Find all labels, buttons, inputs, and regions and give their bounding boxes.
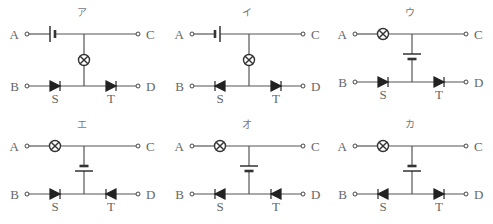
diode-s-icon-triangle bbox=[215, 189, 225, 199]
lamp-icon bbox=[378, 141, 389, 152]
terminal-label-a: A bbox=[10, 139, 20, 154]
lamp-icon bbox=[244, 55, 255, 66]
circuit-a: アABCDST bbox=[10, 7, 156, 106]
diode-label-t: T bbox=[107, 91, 115, 106]
circuit-title: ア bbox=[77, 7, 87, 18]
terminal-label-c: C bbox=[311, 27, 320, 42]
diode-s-icon-triangle bbox=[378, 189, 388, 199]
circuit-u: ウABCDST bbox=[338, 7, 484, 102]
circuit-title: ウ bbox=[405, 7, 415, 18]
diode-label-t: T bbox=[107, 199, 115, 214]
terminal-b bbox=[25, 192, 29, 196]
terminal-a bbox=[353, 32, 357, 36]
terminal-label-a: A bbox=[10, 27, 20, 42]
circuit-i: イABCDST bbox=[175, 7, 321, 106]
terminal-label-c: C bbox=[146, 139, 155, 154]
terminal-label-d: D bbox=[474, 187, 483, 202]
terminal-label-b: B bbox=[338, 187, 347, 202]
circuit-title: エ bbox=[77, 119, 87, 130]
diode-t-icon-triangle bbox=[271, 81, 281, 91]
terminal-a bbox=[190, 32, 194, 36]
diode-label-s: S bbox=[216, 91, 223, 106]
terminal-label-d: D bbox=[474, 75, 483, 90]
terminal-label-b: B bbox=[10, 187, 19, 202]
terminal-a bbox=[190, 144, 194, 148]
terminal-label-b: B bbox=[10, 79, 19, 94]
lamp-icon bbox=[215, 141, 226, 152]
terminal-label-b: B bbox=[338, 75, 347, 90]
terminal-a bbox=[353, 144, 357, 148]
diode-t-icon bbox=[271, 81, 281, 91]
circuit-e: エABCDST bbox=[10, 119, 156, 214]
terminal-label-c: C bbox=[311, 139, 320, 154]
diode-s-icon bbox=[378, 189, 388, 199]
terminal-c bbox=[464, 144, 468, 148]
diode-label-s: S bbox=[379, 199, 386, 214]
terminal-d bbox=[301, 192, 305, 196]
terminal-a bbox=[25, 32, 29, 36]
diode-t-icon bbox=[106, 189, 116, 199]
diode-s-icon-triangle bbox=[378, 77, 388, 87]
battery-icon bbox=[403, 54, 421, 59]
lamp-icon bbox=[79, 55, 90, 66]
diode-s-icon-triangle bbox=[215, 81, 225, 91]
circuit-diagram: アABCDSTイABCDSTウABCDSTエABCDSTオABCDSTカABCD… bbox=[0, 0, 493, 224]
diode-t-icon-triangle bbox=[271, 189, 281, 199]
battery-icon bbox=[50, 26, 55, 42]
battery-icon bbox=[403, 166, 421, 171]
diode-t-icon bbox=[106, 81, 116, 91]
terminal-d bbox=[136, 192, 140, 196]
diode-label-t: T bbox=[272, 91, 280, 106]
diode-label-t: T bbox=[272, 199, 280, 214]
terminal-label-a: A bbox=[338, 27, 348, 42]
terminal-c bbox=[301, 144, 305, 148]
diode-t-icon-triangle bbox=[106, 189, 116, 199]
terminal-a bbox=[25, 144, 29, 148]
diode-s-icon bbox=[50, 189, 60, 199]
terminal-d bbox=[464, 192, 468, 196]
terminal-b bbox=[25, 84, 29, 88]
circuit-ka: カABCDST bbox=[338, 119, 484, 214]
diode-s-icon-triangle bbox=[50, 189, 60, 199]
circuit-title: カ bbox=[405, 119, 415, 130]
diode-label-s: S bbox=[51, 199, 58, 214]
battery-icon bbox=[240, 166, 258, 171]
terminal-label-d: D bbox=[146, 187, 155, 202]
diode-label-s: S bbox=[379, 87, 386, 102]
terminal-c bbox=[136, 32, 140, 36]
terminal-c bbox=[136, 144, 140, 148]
terminal-label-a: A bbox=[338, 139, 348, 154]
diode-s-icon bbox=[50, 81, 60, 91]
terminal-c bbox=[464, 32, 468, 36]
terminal-label-a: A bbox=[175, 27, 185, 42]
circuit-o: オABCDST bbox=[175, 119, 321, 214]
terminal-b bbox=[190, 84, 194, 88]
diode-t-icon-triangle bbox=[434, 77, 444, 87]
terminal-d bbox=[136, 84, 140, 88]
battery-icon bbox=[75, 166, 93, 171]
diode-t-icon bbox=[271, 189, 281, 199]
terminal-label-d: D bbox=[146, 79, 155, 94]
diode-t-icon-triangle bbox=[434, 189, 444, 199]
terminal-label-b: B bbox=[175, 79, 184, 94]
diode-s-icon-triangle bbox=[50, 81, 60, 91]
terminal-label-c: C bbox=[474, 27, 483, 42]
terminal-d bbox=[301, 84, 305, 88]
circuit-title: オ bbox=[242, 119, 252, 130]
battery-icon bbox=[215, 26, 220, 42]
terminal-d bbox=[464, 80, 468, 84]
diode-label-t: T bbox=[435, 199, 443, 214]
lamp-icon bbox=[378, 29, 389, 40]
terminal-b bbox=[190, 192, 194, 196]
diode-t-icon bbox=[434, 77, 444, 87]
diode-label-s: S bbox=[51, 91, 58, 106]
diode-label-t: T bbox=[435, 87, 443, 102]
diode-s-icon bbox=[378, 77, 388, 87]
terminal-b bbox=[353, 192, 357, 196]
diode-label-s: S bbox=[216, 199, 223, 214]
terminal-label-d: D bbox=[311, 187, 320, 202]
terminal-c bbox=[301, 32, 305, 36]
diode-s-icon bbox=[215, 81, 225, 91]
terminal-label-b: B bbox=[175, 187, 184, 202]
lamp-icon bbox=[50, 141, 61, 152]
